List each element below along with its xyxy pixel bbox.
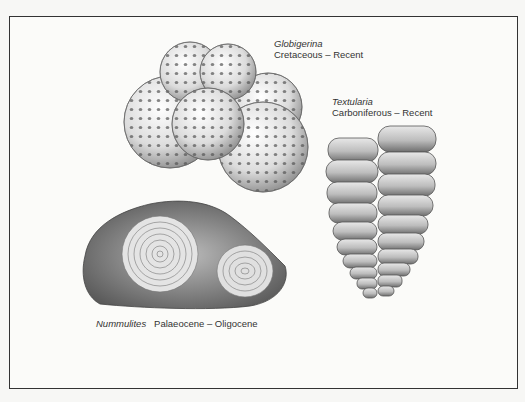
globigerina-label: Globigerina Cretaceous – Recent [274,38,363,60]
globigerina-name: Globigerina [274,38,363,49]
textularia-label: Textularia Carboniferous – Recent [332,96,432,118]
textularia-name: Textularia [332,96,432,107]
nummulites-illustration [80,196,295,311]
textularia-illustration [323,122,438,307]
globigerina-illustration [118,42,318,192]
nummulites-label: Nummulites Palaeocene – Oligocene [96,318,258,329]
globigerina-range: Cretaceous – Recent [274,49,363,60]
nummulites-name: Nummulites [96,318,146,329]
nummulites-range: Palaeocene – Oligocene [154,318,258,329]
textularia-range: Carboniferous – Recent [332,107,432,118]
